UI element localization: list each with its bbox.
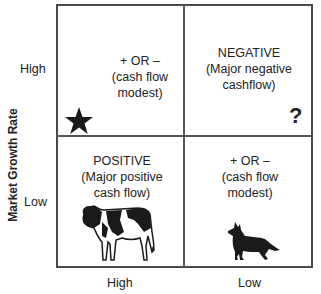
cow-icon (78, 202, 158, 264)
quadrant-bottom-left-text: POSITIVE (Major positive cash flow) (72, 153, 172, 201)
quadrant-top-right-text: NEGATIVE (Major negative cashflow) (199, 45, 299, 93)
horizontal-divider (56, 135, 313, 137)
quadrant-line: cash flow) (72, 185, 172, 201)
quadrant-line: (Major positive (72, 169, 172, 185)
quadrant-line: cashflow) (199, 77, 299, 93)
quadrant-line: NEGATIVE (199, 45, 299, 61)
quadrant-top-left-text: + OR – (cash flow modest) (100, 53, 180, 101)
quadrant-line: (cash flow (208, 169, 292, 185)
y-label-high: High (20, 62, 46, 76)
quadrant-line: + OR – (100, 53, 180, 69)
quadrant-line: + OR – (208, 153, 292, 169)
y-axis-title: Market Growth Rate (6, 105, 20, 225)
quadrant-line: (Major negative (199, 61, 299, 77)
quadrant-line: (cash flow (100, 69, 180, 85)
quadrant-line: modest) (100, 85, 180, 101)
dog-icon (225, 222, 281, 262)
x-label-low: Low (238, 276, 261, 290)
x-label-high: High (107, 276, 133, 290)
quadrant-line: modest) (208, 185, 292, 201)
star-icon (64, 106, 94, 135)
quadrant-bottom-right-text: + OR – (cash flow modest) (208, 153, 292, 201)
quadrant-line: POSITIVE (72, 153, 172, 169)
y-label-low: Low (24, 195, 47, 209)
question-mark-icon: ? (289, 103, 302, 129)
